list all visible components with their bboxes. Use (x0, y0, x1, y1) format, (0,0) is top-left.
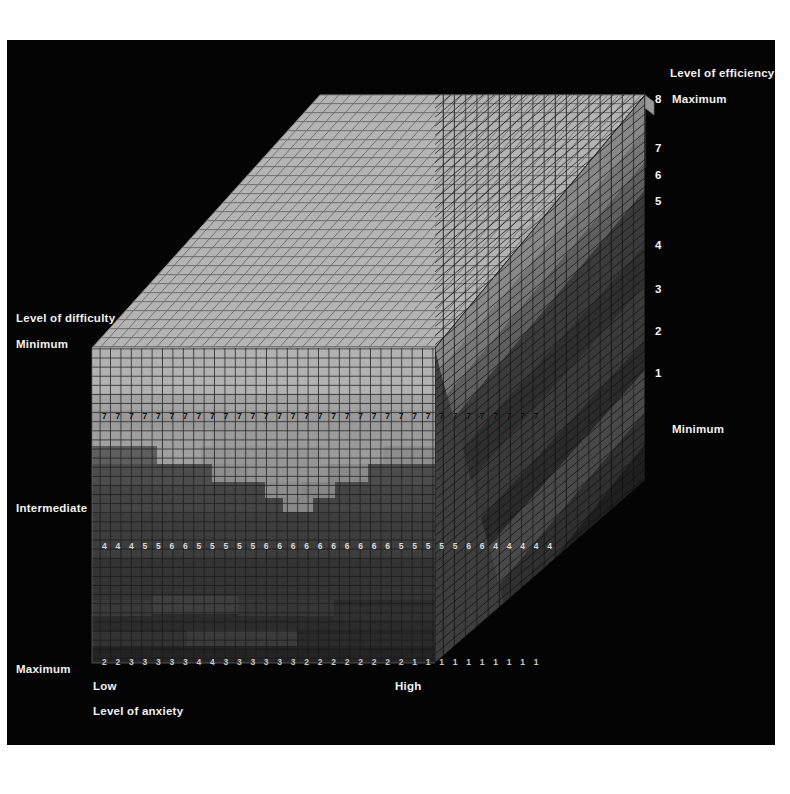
difficulty-label-intermediate: Intermediate (16, 502, 87, 514)
contour-row-low-digits: 2 2 3 3 3 3 3 4 4 3 3 3 3 3 3 2 2 2 2 2 … (102, 657, 542, 667)
efficiency-max-label: Maximum (672, 93, 727, 105)
anxiety-label-high: High (395, 680, 422, 692)
contour-row-7-digits: 7 7 7 7 7 7 7 7 7 7 7 7 7 7 7 7 7 7 7 7 … (102, 411, 542, 421)
efficiency-tick-6: 6 (655, 169, 661, 181)
efficiency-axis-title: Level of efficiency (670, 67, 774, 79)
right-side-face (435, 95, 650, 665)
efficiency-tick-1: 1 (655, 367, 661, 379)
difficulty-label-maximum: Maximum (16, 663, 71, 675)
efficiency-tick-7: 7 (655, 142, 661, 154)
contour-row-mid-digits: 4 4 4 5 5 6 6 5 5 5 5 5 6 6 6 6 6 6 6 6 … (102, 541, 555, 551)
anxiety-label-low: Low (93, 680, 117, 692)
efficiency-tick-5: 5 (655, 195, 661, 207)
efficiency-tick-3: 3 (655, 283, 661, 295)
efficiency-min-label: Minimum (672, 423, 724, 435)
plot-canvas: 7 7 7 7 7 7 7 7 7 7 7 7 7 7 7 7 7 7 7 7 … (7, 40, 775, 745)
difficulty-axis-title: Level of difficulty (16, 312, 115, 324)
anxiety-axis-title: Level of anxiety (93, 705, 183, 717)
efficiency-tick-4: 4 (655, 239, 661, 251)
figure-page: 7 7 7 7 7 7 7 7 7 7 7 7 7 7 7 7 7 7 7 7 … (0, 0, 790, 794)
efficiency-tick-2: 2 (655, 325, 661, 337)
difficulty-label-minimum: Minimum (16, 338, 68, 350)
front-face (92, 348, 435, 663)
efficiency-tick-8: 8 (655, 93, 661, 105)
